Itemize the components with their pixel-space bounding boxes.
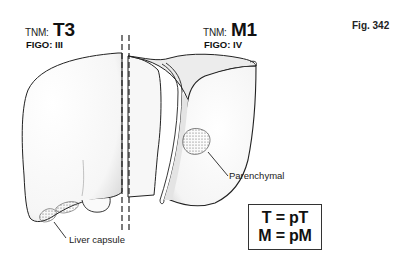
- right-tnm-label: TNM: M1: [203, 19, 257, 41]
- right-liver-lobe: [128, 54, 257, 206]
- left-liver-lobe: [22, 53, 122, 222]
- right-figo-label: FIGO: IV: [204, 39, 242, 50]
- tnm-stage-t3: T3: [53, 19, 75, 40]
- parenchymal-label: Parenchymal: [229, 170, 284, 181]
- left-tnm-label: TNM: T3: [25, 19, 75, 41]
- tnm-prefix: TNM:: [203, 27, 227, 38]
- formula-box: T = pT M = pM: [248, 204, 322, 250]
- figure-number: Fig. 342: [352, 20, 389, 31]
- liver-capsule-label: Liver capsule: [69, 234, 125, 245]
- tnm-stage-m1: M1: [231, 19, 257, 40]
- formula-t: T = pT: [262, 209, 308, 227]
- formula-m: M = pM: [258, 227, 311, 245]
- tnm-prefix: TNM:: [25, 27, 49, 38]
- left-figo-label: FIGO: III: [26, 39, 63, 50]
- liver-capsule-leader: [54, 222, 66, 238]
